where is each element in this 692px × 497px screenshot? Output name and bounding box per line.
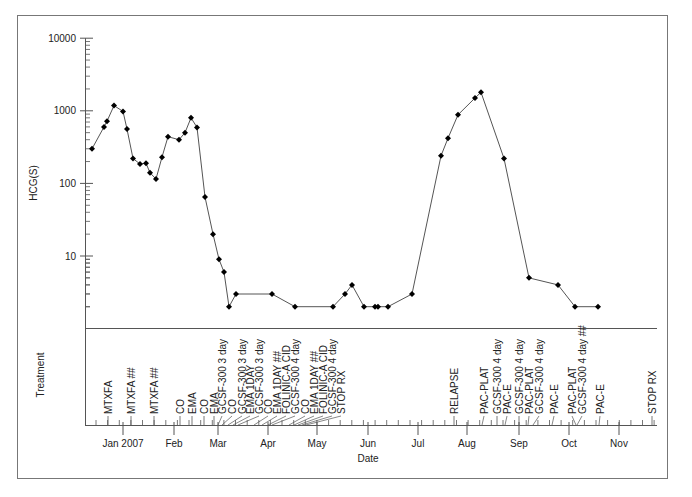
- x-tick-label: Feb: [165, 438, 183, 449]
- data-point-marker: [445, 135, 451, 141]
- treatment-event: STOP RX: [647, 370, 658, 425]
- x-tick-label: Jun: [360, 438, 376, 449]
- treatment-leader-line: [599, 416, 600, 425]
- treatment-label: GCSF-300 4 day ##: [577, 325, 588, 414]
- treatment-event: GCSF-300 4 day: [533, 339, 545, 425]
- x-axis-label: Date: [357, 453, 379, 464]
- data-point-marker: [292, 304, 298, 310]
- treatment-leader-line: [528, 416, 529, 425]
- y-tick-label: 10: [65, 251, 77, 262]
- treatment-event: MTXFA ##: [126, 367, 137, 425]
- treatment-leader-line: [218, 416, 222, 425]
- data-point-marker: [361, 304, 367, 310]
- data-point-marker: [104, 118, 110, 124]
- treatment-event: PAC-E: [595, 384, 606, 425]
- x-axis: Jan 2007FebMarAprMayJunJulAugSepOctNov: [85, 420, 657, 449]
- treatment-label: STOP RX: [647, 370, 658, 414]
- treatment-label: PAC-PLAT: [479, 367, 490, 414]
- data-point-marker: [595, 304, 601, 310]
- treatment-label: CO: [175, 399, 186, 414]
- treatment-label: MTXFA ##: [126, 367, 137, 414]
- treatment-label: EMA: [187, 392, 198, 414]
- treatment-leader-line: [552, 416, 554, 425]
- y-tick-label: 100: [59, 178, 76, 189]
- data-point-marker: [210, 231, 216, 237]
- treatment-label: MTXFA: [103, 380, 114, 414]
- treatment-leader-line: [577, 416, 582, 425]
- series-path: [92, 92, 598, 306]
- x-tick-label: Nov: [610, 438, 628, 449]
- data-point-marker: [101, 124, 107, 130]
- treatment-event: EMA: [187, 392, 198, 425]
- data-point-marker: [120, 108, 126, 114]
- data-point-marker: [165, 134, 171, 140]
- treatment-label: PAC-E: [595, 384, 606, 414]
- y-axis-label: HCG(S): [28, 165, 39, 201]
- treatment-leader-line: [505, 416, 507, 425]
- treatment-event: PAC-E: [502, 384, 513, 425]
- data-point-marker: [194, 124, 200, 130]
- data-point-marker: [202, 194, 208, 200]
- x-tick-label: Jan 2007: [102, 438, 144, 449]
- treatment-label: MTXFA ##: [149, 367, 160, 414]
- treatment-panel: MTXFAMTXFA ##MTXFA ##COEMACOEMAGCSF-300 …: [103, 325, 658, 425]
- y-tick-label: 1000: [54, 105, 77, 116]
- data-point-marker: [159, 154, 165, 160]
- treatment-event: PAC-PLAT: [479, 367, 490, 425]
- y-axis: 10100100010000: [48, 33, 93, 328]
- treatment-label: GCSF-300 4 day: [534, 339, 545, 414]
- hcg-series-markers: [89, 89, 601, 309]
- data-point-marker: [501, 156, 507, 162]
- x-tick-label: Apr: [260, 438, 276, 449]
- treatment-label: PAC-E: [502, 384, 513, 414]
- data-point-marker: [216, 256, 222, 262]
- data-point-marker: [89, 146, 95, 152]
- treatment-event: RELAPSE: [449, 368, 460, 425]
- x-tick-label: May: [308, 438, 327, 449]
- x-tick-label: Aug: [458, 438, 476, 449]
- data-point-marker: [438, 153, 444, 159]
- data-point-marker: [269, 291, 275, 297]
- treatment-label: STOP RX: [336, 370, 347, 414]
- data-point-marker: [124, 126, 130, 132]
- y-tick-label: 10000: [48, 33, 76, 44]
- treatment-label: RELAPSE: [449, 368, 460, 414]
- data-point-marker: [526, 275, 532, 281]
- x-tick-label: Jul: [412, 438, 425, 449]
- treatment-axis-label: Treatment: [35, 352, 46, 397]
- hcg-treatment-chart: 10100100010000 MTXFAMTXFA ##MTXFA ##COEM…: [0, 0, 692, 497]
- hcg-series-line: [92, 92, 598, 306]
- data-point-marker: [233, 291, 239, 297]
- data-point-marker: [143, 160, 149, 166]
- data-point-marker: [221, 269, 227, 275]
- chart-canvas: 10100100010000 MTXFAMTXFA ##MTXFA ##COEM…: [0, 0, 692, 497]
- x-tick-label: Sep: [510, 438, 528, 449]
- treatment-event: CO: [175, 399, 186, 425]
- data-point-marker: [188, 115, 194, 121]
- treatment-leader-line: [482, 416, 484, 425]
- x-tick-label: Mar: [209, 438, 227, 449]
- treatment-label: PAC-E: [549, 384, 560, 414]
- treatment-event: MTXFA: [103, 380, 114, 425]
- treatment-event: PAC-E: [549, 384, 560, 425]
- data-point-marker: [385, 304, 391, 310]
- x-tick-label: Oct: [561, 438, 577, 449]
- data-point-marker: [226, 304, 232, 310]
- treatment-event: MTXFA ##: [149, 367, 160, 425]
- data-point-marker: [409, 291, 415, 297]
- treatment-event: GCSF-300 4 day ##: [577, 325, 588, 425]
- data-point-marker: [111, 103, 117, 109]
